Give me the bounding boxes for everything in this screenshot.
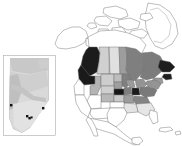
sample-point-marker	[28, 117, 30, 119]
region-alaska	[55, 27, 88, 49]
region-saskatchewan	[109, 47, 120, 74]
sample-point-marker	[31, 116, 33, 118]
region-wyoming	[101, 86, 114, 94]
region-kansas	[114, 95, 124, 102]
region-montana	[101, 74, 114, 86]
sample-point-marker	[10, 104, 12, 106]
sample-point-marker	[26, 115, 28, 117]
region-oklahoma	[110, 102, 124, 108]
region-missouri	[124, 95, 134, 103]
map-figure	[0, 0, 182, 146]
north-america-map	[55, 3, 181, 145]
caribbean-islands	[159, 127, 181, 135]
region-nebraska	[114, 89, 124, 95]
region-colorado	[101, 94, 114, 102]
region-south-dakota	[114, 82, 122, 89]
sample-point-marker	[42, 107, 44, 109]
region-labrador	[158, 60, 175, 72]
region-newfoundland	[162, 74, 172, 80]
region-greenland	[145, 3, 178, 49]
alberta-inset-map	[4, 56, 56, 136]
region-florida	[149, 110, 158, 124]
region-iowa	[124, 87, 132, 95]
region-illinois	[132, 88, 140, 95]
region-wisconsin	[126, 80, 135, 88]
region-kentucky-tennessee	[133, 96, 150, 104]
region-north-dakota	[114, 74, 122, 82]
